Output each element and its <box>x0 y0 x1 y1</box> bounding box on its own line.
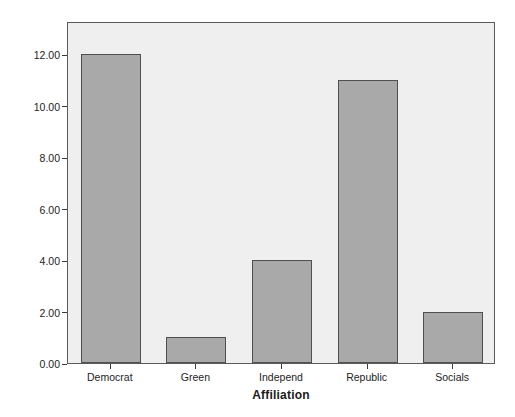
x-axis-tick-label: Green <box>181 371 210 383</box>
x-axis-tick-mark <box>367 364 368 369</box>
x-axis-tick-label: Socials <box>435 371 469 383</box>
x-axis-tick-label: Republic <box>346 371 387 383</box>
y-axis-tick-label: 4.00 <box>40 255 62 267</box>
bar <box>423 312 483 363</box>
bar-chart: Frequency 0.002.004.006.008.0010.0012.00… <box>0 0 515 417</box>
bar <box>166 337 226 363</box>
y-axis-tick: 10.00 <box>34 100 67 114</box>
bar <box>338 80 398 363</box>
x-axis-tick-mark <box>110 364 111 369</box>
bar <box>81 54 141 363</box>
x-axis-tick-mark <box>452 364 453 369</box>
x-axis-title: Affiliation <box>67 388 495 402</box>
y-axis-tick-label: 2.00 <box>40 307 62 319</box>
bar <box>252 260 312 363</box>
y-axis-tick-label: 6.00 <box>40 204 62 216</box>
x-axis-tick-mark <box>195 364 196 369</box>
y-axis-tick: 0.00 <box>40 357 67 371</box>
plot-area <box>67 22 495 364</box>
y-axis-tick-label: 8.00 <box>40 152 62 164</box>
y-axis-tick: 8.00 <box>40 151 67 165</box>
x-axis-tick-label: Democrat <box>87 371 133 383</box>
y-axis-tick-label: 10.00 <box>34 101 62 113</box>
x-axis-tick-label: Independ <box>259 371 303 383</box>
y-axis-ticks: 0.002.004.006.008.0010.0012.00 <box>0 0 67 417</box>
y-axis-tick-label: 0.00 <box>40 358 62 370</box>
y-axis-tick: 2.00 <box>40 306 67 320</box>
y-axis-tick: 4.00 <box>40 254 67 268</box>
bars-layer <box>68 23 494 363</box>
x-axis-tick-mark <box>281 364 282 369</box>
y-axis-tick: 6.00 <box>40 203 67 217</box>
y-axis-tick-label: 12.00 <box>34 49 62 61</box>
y-axis-tick: 12.00 <box>34 48 67 62</box>
